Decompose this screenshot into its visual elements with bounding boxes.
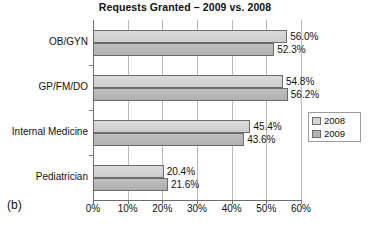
bar-2009[interactable] [93,178,168,191]
y-axis-category-label: Pediatrician [36,171,88,182]
bar-value-label: 20.4% [167,165,195,178]
chart-title: Requests Granted – 2009 vs. 2008 [0,1,370,13]
legend-item-2008[interactable]: 2008 [312,115,360,127]
y-axis-tick-mark [89,65,93,66]
bar-2008[interactable] [93,165,164,178]
bar-2009[interactable] [93,88,288,101]
legend-swatch-2009-icon [312,130,321,138]
y-axis-tick-mark [89,110,93,111]
legend-label-2008: 2008 [324,116,345,126]
bar-value-label: 56.0% [290,30,318,43]
bar-value-label: 43.6% [247,133,275,146]
x-axis-tick-label: 60% [281,203,321,214]
y-axis-tick-mark [89,155,93,156]
y-axis-category-label: OB/GYN [49,36,88,47]
bar-value-label: 45.4% [253,120,281,133]
legend-swatch-2008-icon [312,117,321,125]
chart-legend[interactable]: 2008 2009 [308,112,361,142]
bar-value-label: 54.8% [286,75,314,88]
legend-item-2009[interactable]: 2009 [312,128,360,140]
bar-value-label: 52.3% [277,43,305,56]
y-axis-category-label: GP/FM/DO [39,81,88,92]
legend-label-2009: 2009 [324,129,345,139]
figure-caption: (b) [7,198,22,212]
bar-value-label: 21.6% [171,178,199,191]
bar-2008[interactable] [93,30,287,43]
bar-2009[interactable] [93,43,274,56]
bar-2009[interactable] [93,133,244,146]
bar-2008[interactable] [93,120,250,133]
y-axis-category-label: Internal Medicine [12,126,88,137]
bar-value-label: 56.2% [291,88,319,101]
bar-2008[interactable] [93,75,283,88]
